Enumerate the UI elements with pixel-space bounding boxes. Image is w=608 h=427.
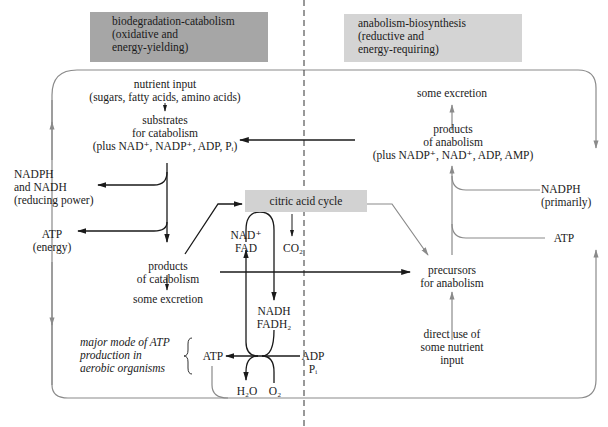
reducing-power-label: NADPH and NADH (reducing power) xyxy=(14,168,94,207)
atp-output-label: ATP xyxy=(200,350,226,363)
anabolism-atp-label: ATP xyxy=(548,232,580,245)
nadh-fadh2-label: NADH FADH₂ xyxy=(252,305,296,331)
co2-label: CO₂ xyxy=(280,242,306,255)
o2-label: O₂ xyxy=(264,385,286,398)
atp-production-note: major mode of ATP production in aerobic … xyxy=(80,336,170,375)
products-of-catabolism-label: products of catabolism xyxy=(125,260,211,286)
direct-use-label: direct use of some nutrient input xyxy=(410,328,494,367)
pi-label: Pᵢ xyxy=(298,363,328,376)
anabolism-header: anabolism-biosynthesis (reductive and en… xyxy=(344,14,522,62)
adp-label: ADP xyxy=(296,350,330,363)
substrates-label: substrates for catabolism (plus NAD⁺, NA… xyxy=(75,114,255,153)
h2o-label: H₂O xyxy=(232,385,262,398)
atp-energy-label: ATP (energy) xyxy=(24,228,80,254)
nutrient-input-label: nutrient input (sugars, fatty acids, ami… xyxy=(85,78,245,104)
catabolism-excretion-label: some excretion xyxy=(120,293,216,306)
nadph-primarily-label: NADPH (primarily) xyxy=(541,183,591,209)
products-of-anabolism-label: products of anabolism (plus NADP⁺, NAD⁺,… xyxy=(355,123,551,162)
catabolism-header: biodegradation-catabolism (oxidative and… xyxy=(90,12,268,62)
citric-acid-cycle-box: citric acid cycle xyxy=(245,190,367,212)
brace-icon xyxy=(184,338,192,374)
nad-fad-label: NAD⁺ FAD xyxy=(226,229,266,255)
precursors-label: precursors for anabolism xyxy=(412,264,492,290)
anabolism-excretion-label: some excretion xyxy=(400,87,504,100)
